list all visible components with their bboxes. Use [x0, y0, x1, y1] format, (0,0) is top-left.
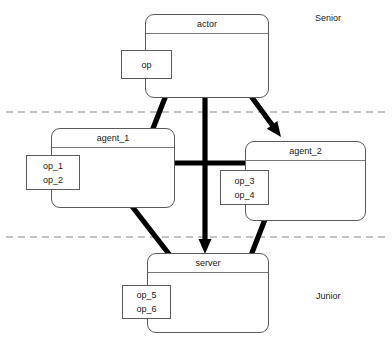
uml-class-name-agent-2: agent_2: [246, 142, 365, 161]
arrow-actor-to-server[interactable]: [199, 84, 212, 254]
operation-box-agent-2[interactable]: op_3 op_4: [220, 170, 269, 205]
operation-label: op_6: [136, 302, 156, 316]
operation-box-actor[interactable]: op: [121, 50, 172, 79]
operation-label: op_2: [43, 173, 63, 187]
uml-class-name-server: server: [148, 254, 268, 273]
operation-label: op_3: [234, 174, 254, 188]
operation-label: op_5: [136, 288, 156, 302]
operation-label: op_1: [43, 159, 63, 173]
diagram-canvas: actor op agent_1 op_1 op_2 agent_2 op_3 …: [0, 0, 392, 349]
tier-label-senior: Senior: [315, 13, 341, 23]
arrow-head: [199, 239, 212, 254]
operation-box-server[interactable]: op_5 op_6: [122, 285, 171, 319]
operation-label: op: [141, 58, 151, 72]
operation-label: op_4: [234, 188, 254, 202]
operation-box-agent-1[interactable]: op_1 op_2: [26, 155, 80, 190]
tier-label-junior: Junior: [316, 291, 341, 301]
uml-class-name-agent-1: agent_1: [52, 129, 174, 148]
uml-class-name-actor: actor: [146, 15, 268, 34]
